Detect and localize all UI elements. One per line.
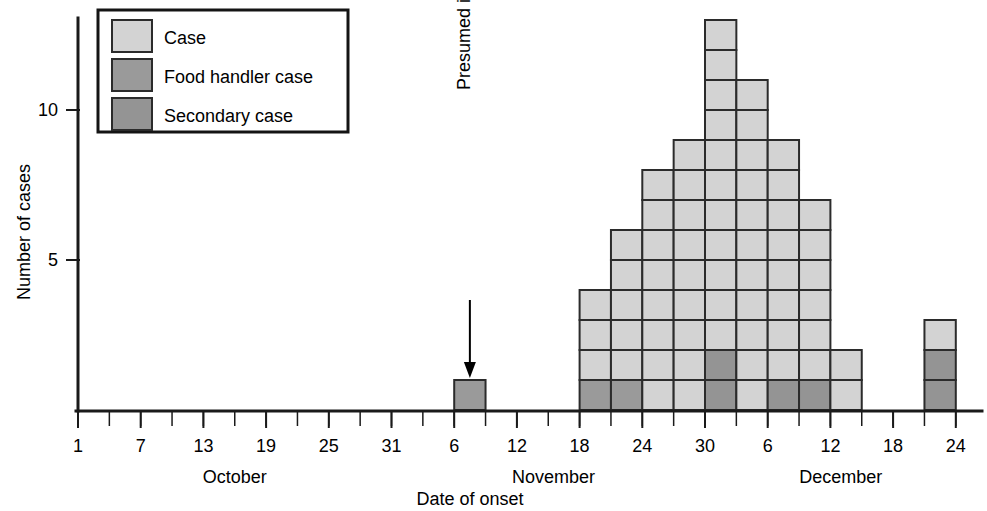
bar-cell bbox=[611, 320, 642, 350]
bar-column bbox=[799, 200, 830, 410]
bar-cell bbox=[736, 230, 767, 260]
month-label: November bbox=[512, 467, 595, 487]
bar-column bbox=[611, 230, 642, 410]
bar-cell bbox=[611, 230, 642, 260]
x-axis-title: Date of onset bbox=[416, 489, 523, 509]
epidemic-curve-figure: 510 17131925316121824306121824 OctoberNo… bbox=[0, 0, 987, 511]
bar-cell bbox=[768, 320, 799, 350]
bar-cell bbox=[799, 290, 830, 320]
bar-cell bbox=[799, 200, 830, 230]
bar-cell bbox=[799, 260, 830, 290]
bar-column bbox=[736, 80, 767, 410]
bar-cell bbox=[799, 350, 830, 380]
x-tick-label: 6 bbox=[449, 436, 459, 456]
chart-canvas: 510 17131925316121824306121824 OctoberNo… bbox=[0, 0, 987, 511]
bar-cell bbox=[580, 290, 611, 320]
x-tick-label: 13 bbox=[193, 436, 213, 456]
legend-swatch bbox=[112, 20, 152, 52]
bar-cell bbox=[611, 350, 642, 380]
x-tick-label: 1 bbox=[73, 436, 83, 456]
bar-cell bbox=[736, 290, 767, 320]
bar-cell bbox=[924, 320, 955, 350]
bar-cell bbox=[705, 80, 736, 110]
bar-column bbox=[674, 140, 705, 410]
legend-swatch bbox=[112, 98, 152, 130]
month-label: December bbox=[799, 467, 882, 487]
bar-cell bbox=[830, 350, 861, 380]
legend: CaseFood handler caseSecondary case bbox=[98, 10, 348, 132]
bar-cell bbox=[705, 110, 736, 140]
x-tick-label: 6 bbox=[763, 436, 773, 456]
month-labels: OctoberNovemberDecember bbox=[203, 467, 883, 487]
bar-cell bbox=[736, 80, 767, 110]
bars-layer bbox=[454, 20, 956, 410]
bar-column bbox=[705, 20, 736, 410]
x-axis-ticks bbox=[78, 412, 956, 428]
annotation-arrow-head bbox=[464, 362, 476, 378]
bar-cell bbox=[705, 20, 736, 50]
bar-cell bbox=[705, 170, 736, 200]
annotation-presumed-index-case: Presumed index case bbox=[454, 0, 476, 378]
y-tick-label: 5 bbox=[48, 250, 58, 270]
bar-cell bbox=[674, 320, 705, 350]
bar-cell bbox=[799, 380, 830, 410]
bar-cell bbox=[799, 230, 830, 260]
legend-label: Case bbox=[164, 28, 206, 48]
x-tick-label: 25 bbox=[319, 436, 339, 456]
bar-cell bbox=[642, 260, 673, 290]
bar-cell bbox=[674, 200, 705, 230]
bar-cell bbox=[736, 380, 767, 410]
bar-cell bbox=[768, 140, 799, 170]
y-tick-label: 10 bbox=[38, 100, 58, 120]
legend-swatch bbox=[112, 59, 152, 91]
bar-cell bbox=[736, 260, 767, 290]
bar-column bbox=[830, 350, 861, 410]
x-tick-label: 12 bbox=[507, 436, 527, 456]
bar-cell bbox=[924, 350, 955, 380]
bar-cell bbox=[674, 380, 705, 410]
bar-cell bbox=[736, 170, 767, 200]
bar-cell bbox=[705, 230, 736, 260]
bar-cell bbox=[674, 140, 705, 170]
bar-cell bbox=[642, 290, 673, 320]
y-axis-ticks: 510 bbox=[38, 100, 80, 270]
bar-cell bbox=[611, 260, 642, 290]
annotations-layer: Presumed index case bbox=[454, 0, 476, 378]
bar-cell bbox=[768, 230, 799, 260]
bar-cell bbox=[674, 290, 705, 320]
bar-cell bbox=[642, 170, 673, 200]
bar-cell bbox=[736, 350, 767, 380]
bar-cell bbox=[642, 320, 673, 350]
bar-cell bbox=[705, 290, 736, 320]
bar-cell bbox=[736, 320, 767, 350]
bar-cell bbox=[768, 170, 799, 200]
y-axis-title: Number of cases bbox=[14, 164, 34, 300]
bar-cell bbox=[705, 380, 736, 410]
bar-cell bbox=[674, 230, 705, 260]
bar-cell bbox=[642, 380, 673, 410]
bar-cell bbox=[611, 380, 642, 410]
bar-cell bbox=[674, 350, 705, 380]
bar-cell bbox=[705, 140, 736, 170]
x-tick-label: 18 bbox=[570, 436, 590, 456]
bar-cell bbox=[642, 230, 673, 260]
bar-cell bbox=[736, 140, 767, 170]
month-label: October bbox=[203, 467, 267, 487]
bar-cell bbox=[768, 380, 799, 410]
bar-cell bbox=[705, 260, 736, 290]
bar-cell bbox=[768, 260, 799, 290]
bar-cell bbox=[674, 260, 705, 290]
legend-label: Food handler case bbox=[164, 67, 313, 87]
bar-column bbox=[580, 290, 611, 410]
bar-cell bbox=[580, 350, 611, 380]
x-tick-label: 24 bbox=[632, 436, 652, 456]
bar-cell bbox=[799, 320, 830, 350]
bar-cell bbox=[705, 350, 736, 380]
bar-cell bbox=[580, 380, 611, 410]
bar-cell bbox=[642, 350, 673, 380]
annotation-label: Presumed index case bbox=[454, 0, 474, 90]
x-tick-label: 18 bbox=[883, 436, 903, 456]
bar-column bbox=[924, 320, 955, 410]
x-tick-label: 7 bbox=[136, 436, 146, 456]
bar-cell bbox=[830, 380, 861, 410]
